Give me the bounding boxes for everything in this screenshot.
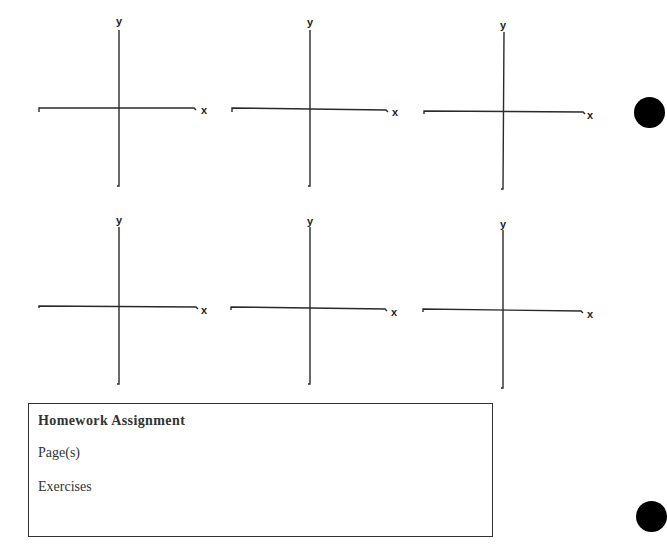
coordinate-grids: y x y x y x y x y x y x — [0, 0, 658, 400]
graph-1-axes — [39, 30, 196, 186]
homework-title: Homework Assignment — [38, 413, 185, 429]
exercises-label: Exercises — [38, 479, 92, 495]
homework-assignment-box: Homework Assignment Page(s) Exercises — [28, 403, 493, 537]
graph-1-x-label: x — [201, 104, 208, 116]
punch-hole-top — [634, 97, 665, 128]
graph-2-x-label: x — [392, 106, 399, 118]
graph-5-x-label: x — [391, 306, 398, 318]
graph-4-y-label: y — [116, 214, 123, 226]
punch-hole-bottom — [636, 501, 667, 532]
graph-6-y-label: y — [500, 218, 507, 230]
graph-4-x-label: x — [201, 304, 208, 316]
graph-5-y-label: y — [307, 215, 314, 227]
graph-3-y-label: y — [500, 19, 507, 31]
graph-1-y-label: y — [116, 15, 123, 27]
graph-3-x-label: x — [587, 109, 594, 121]
graph-2-y-label: y — [307, 16, 314, 28]
graph-3-axes — [424, 32, 585, 189]
graph-6-x-label: x — [587, 308, 594, 320]
graph-6-axes — [423, 230, 583, 388]
graph-5-axes — [231, 227, 387, 384]
pages-label: Page(s) — [38, 445, 80, 461]
graph-2-axes — [232, 30, 388, 186]
graph-4-axes — [39, 227, 198, 384]
